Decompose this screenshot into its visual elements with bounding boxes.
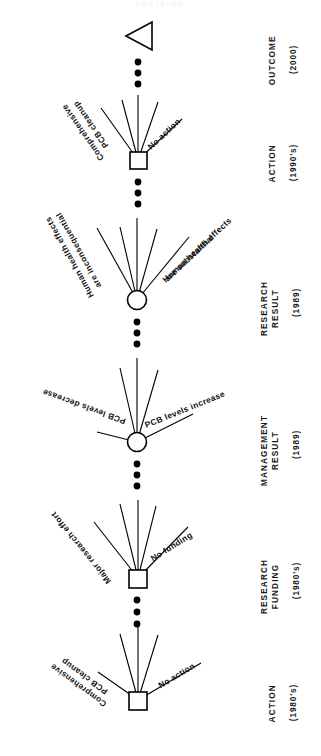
stage-label-action-1980s: ACTION — [268, 643, 279, 756]
branches-research-result — [97, 218, 189, 300]
stage-period-action-1980s-text: (1980's) — [289, 643, 298, 756]
stage-name-outcome: OUTCOME — [268, 0, 279, 120]
stage-name-research-result: RESEARCHRESULT — [260, 249, 281, 369]
stage-period-action-1990s-text: (1990's) — [289, 103, 298, 223]
stage-name-action-1980s: ACTION — [268, 643, 279, 756]
stage-period-research-result: (1989) — [292, 243, 301, 363]
decision-tree-diagram: DECISION Comprehensive PCB cleanup No ac… — [0, 0, 321, 756]
node-action-1990s — [130, 152, 147, 169]
stage-period-research-funding-text: (1980's) — [292, 521, 301, 641]
stage-name-research-funding: RESEARCHFUNDING — [260, 527, 281, 647]
branch-line — [120, 227, 137, 300]
branch-line — [137, 370, 158, 442]
stage-period-management-result: (1989) — [292, 385, 301, 505]
branch-label-no-funding: No funding — [149, 530, 194, 564]
stage-name-management-result: MANAGEMENTRESULT — [260, 391, 281, 511]
node-action-1980s — [129, 692, 147, 710]
branch-label-pcb-levels-increase: PCB levels increase — [143, 389, 226, 430]
square-decision-node — [130, 152, 147, 169]
stage-label-management-result: MANAGEMENTRESULT — [260, 391, 281, 511]
stage-label-research-result: RESEARCHRESULT — [260, 249, 281, 369]
stage-period-action-1980s: (1980's) — [289, 643, 298, 756]
ellipsis-researchfunding-action1980s — [134, 597, 141, 628]
ellipsis-researchresult-managementresult — [134, 319, 141, 348]
stage-period-research-funding: (1980's) — [292, 521, 301, 641]
stage-period-research-result-text: (1989) — [292, 243, 301, 363]
node-research-funding — [129, 570, 147, 588]
branch-label-major-research-effort: Major research effort — [48, 510, 112, 586]
branch-line — [97, 228, 137, 300]
node-management-result — [128, 433, 147, 452]
branch-line — [120, 634, 138, 700]
branch-line — [122, 100, 138, 160]
square-decision-node — [129, 570, 147, 588]
ellipsis-outcome-action1990s — [135, 59, 142, 88]
branch-label-health-effects-substantial-line2: are substantial — [162, 232, 215, 283]
branches-management-result — [97, 358, 193, 442]
stage-period-management-result-text: (1989) — [292, 385, 301, 505]
stage-period-action-1990s: (1990's) — [289, 103, 298, 223]
branch-label-no-action: No action — [156, 661, 196, 691]
square-decision-node — [129, 692, 147, 710]
branch-label-pcb-levels-decrease: PCB levels decrease — [41, 387, 127, 426]
circle-chance-node — [128, 433, 147, 452]
ellipsis-managementresult-researchfunding — [134, 461, 141, 490]
branch-line — [120, 368, 137, 442]
stage-label-action-1990s: ACTION — [268, 103, 279, 223]
stage-label-research-funding: RESEARCHFUNDING — [260, 527, 281, 647]
triangle-terminal-node — [126, 22, 152, 50]
stage-label-outcome: OUTCOME — [268, 0, 279, 120]
node-research-result — [128, 291, 147, 310]
node-outcome — [126, 22, 152, 50]
branch-line — [138, 506, 156, 578]
stage-name-action-1990s: ACTION — [268, 103, 279, 223]
circle-chance-node — [128, 291, 147, 310]
branch-line — [137, 229, 157, 300]
ellipsis-action1990s-researchresult — [135, 179, 142, 208]
